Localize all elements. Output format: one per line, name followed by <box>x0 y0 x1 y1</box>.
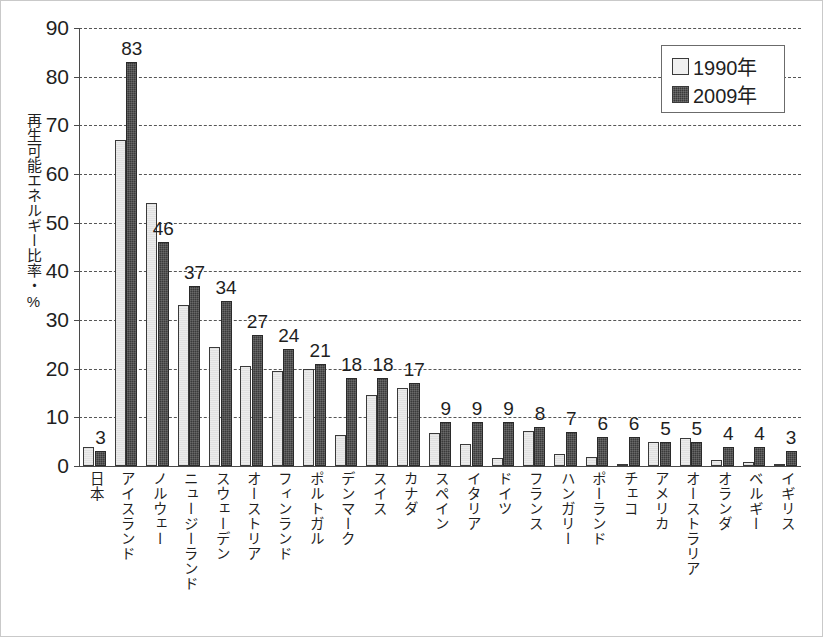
legend-label-1990: 1990年 <box>693 52 758 81</box>
x-tick-label: フィンランド <box>275 471 291 561</box>
bar-2009 <box>409 383 420 466</box>
bar-2009 <box>723 447 734 466</box>
data-label: 24 <box>278 325 299 347</box>
bar-1990 <box>774 464 785 466</box>
data-label: 4 <box>723 423 734 445</box>
x-tick-label: フランス <box>526 471 542 531</box>
y-tick-10 <box>74 417 80 418</box>
y-tick-label-0: 0 <box>57 454 69 478</box>
bar-1990 <box>554 454 565 466</box>
bar-group <box>209 28 232 466</box>
bar-2009 <box>440 422 451 466</box>
bar-1990 <box>648 442 659 466</box>
bar-2009 <box>534 427 545 466</box>
bar-group <box>397 28 420 466</box>
y-tick-80 <box>74 77 80 78</box>
x-tick-label: アメリカ <box>652 471 668 531</box>
x-tick-label: ノルウェー <box>150 471 166 546</box>
data-label: 5 <box>660 418 671 440</box>
x-tick-label: イタリア <box>464 471 480 531</box>
light-square-swatch-icon <box>672 58 689 75</box>
data-label: 5 <box>692 418 703 440</box>
y-tick-90 <box>74 28 80 29</box>
bar-group <box>115 28 138 466</box>
bar-group <box>83 28 106 466</box>
bar-group <box>554 28 577 466</box>
data-label: 9 <box>472 398 483 420</box>
bar-1990 <box>617 464 628 466</box>
bar-1990 <box>680 438 691 466</box>
y-tick-label-10: 10 <box>46 405 69 429</box>
data-label: 83 <box>121 38 142 60</box>
legend-item-2009: 2009年 <box>672 80 784 108</box>
bar-2009 <box>158 242 169 466</box>
x-tick-label: デンマーク <box>338 471 354 546</box>
bar-2009 <box>597 437 608 466</box>
y-tick-label-20: 20 <box>46 357 69 381</box>
x-tick-label: ニュージーランド <box>181 471 197 591</box>
bar-group <box>366 28 389 466</box>
bar-2009 <box>189 286 200 466</box>
bar-1990 <box>366 395 377 466</box>
y-tick-30 <box>74 320 80 321</box>
x-axis-labels: 日本アイスランドノルウェーニュージーランドスウェーデンオーストリアフィンランドポ… <box>79 471 801 636</box>
data-label: 34 <box>215 277 236 299</box>
bar-2009 <box>315 364 326 466</box>
data-label: 4 <box>754 423 765 445</box>
bar-1990 <box>429 433 440 466</box>
bar-1990 <box>523 431 534 466</box>
x-tick-label: カナダ <box>401 471 417 516</box>
x-tick-label: ハンガリー <box>558 471 574 546</box>
x-tick-label: オーストリア <box>244 471 260 561</box>
x-tick-label: ベルギー <box>746 471 762 531</box>
bar-2009 <box>221 301 232 466</box>
bar-2009 <box>283 349 294 466</box>
bar-2009 <box>126 62 137 466</box>
bar-1990 <box>397 388 408 466</box>
x-tick-label: スペイン <box>432 471 448 531</box>
data-label: 3 <box>95 427 106 449</box>
data-label: 9 <box>503 398 514 420</box>
bar-group <box>523 28 546 466</box>
bar-2009 <box>377 378 388 466</box>
y-tick-60 <box>74 174 80 175</box>
y-tick-50 <box>74 223 80 224</box>
bar-2009 <box>629 437 640 466</box>
data-label: 46 <box>153 218 174 240</box>
y-tick-label-80: 80 <box>46 65 69 89</box>
y-tick-70 <box>74 125 80 126</box>
bar-group <box>303 28 326 466</box>
x-tick-label: アイスランド <box>118 471 134 561</box>
bar-1990 <box>460 444 471 466</box>
bar-1990 <box>335 435 346 466</box>
data-label: 8 <box>535 403 546 425</box>
data-label: 17 <box>404 359 425 381</box>
bar-2009 <box>691 442 702 466</box>
bar-1990 <box>178 305 189 466</box>
x-tick-label: ポルトガル <box>307 471 323 546</box>
bar-2009 <box>503 422 514 466</box>
bar-1990 <box>492 458 503 466</box>
bar-1990 <box>209 347 220 466</box>
y-tick-0 <box>74 466 80 467</box>
data-label: 27 <box>247 311 268 333</box>
y-axis-line <box>79 28 80 466</box>
y-tick-label-30: 30 <box>46 308 69 332</box>
y-tick-label-50: 50 <box>46 211 69 235</box>
data-label: 37 <box>184 262 205 284</box>
bar-2009 <box>252 335 263 466</box>
gridline-0 <box>79 466 801 467</box>
data-label: 9 <box>440 398 451 420</box>
y-tick-label-90: 90 <box>46 16 69 40</box>
data-label: 6 <box>597 413 608 435</box>
y-tick-20 <box>74 369 80 370</box>
bar-2009 <box>754 447 765 466</box>
data-label: 6 <box>629 413 640 435</box>
bar-1990 <box>743 462 754 466</box>
bar-2009 <box>95 451 106 466</box>
legend-label-2009: 2009年 <box>693 80 758 109</box>
data-label: 18 <box>372 354 393 376</box>
bar-2009 <box>472 422 483 466</box>
bar-1990 <box>303 369 314 466</box>
x-tick-label: 日本 <box>87 471 103 501</box>
